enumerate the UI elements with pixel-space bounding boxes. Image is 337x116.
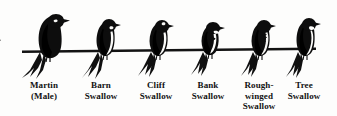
label-line: Swallow xyxy=(219,101,299,112)
label-line: Swallow xyxy=(264,91,337,102)
label-line: Tree xyxy=(264,80,337,91)
species-labels: Martin (Male) Barn Swallow Cliff Swallow… xyxy=(0,80,337,116)
swallow-identification-plate: Martin (Male) Barn Swallow Cliff Swallow… xyxy=(0,0,337,116)
label-tree-swallow: Tree Swallow xyxy=(264,80,337,101)
